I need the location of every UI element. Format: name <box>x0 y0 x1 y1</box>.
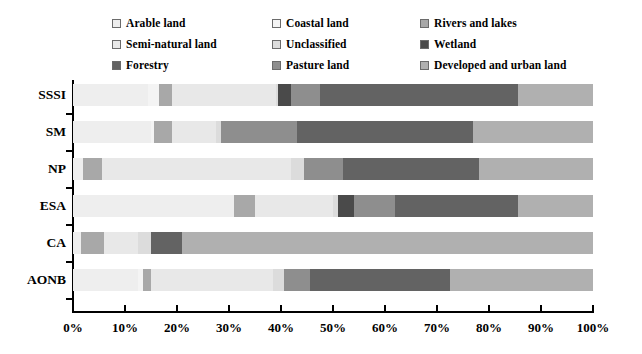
x-axis-tick-label: 50% <box>320 320 346 336</box>
bar-segment <box>151 269 273 291</box>
bar-segment <box>151 232 182 254</box>
y-axis-tick <box>66 261 73 263</box>
y-axis-tick <box>66 113 73 115</box>
y-axis-tick <box>66 224 73 226</box>
x-axis-tick-label: 0% <box>63 320 83 336</box>
bar-segment <box>143 269 151 291</box>
bar-segment <box>221 121 296 143</box>
legend-label: Pasture land <box>286 60 349 72</box>
bar-segment <box>73 84 148 106</box>
y-axis-category-label: SSSI <box>0 87 66 103</box>
bar-segment <box>81 232 104 254</box>
bar-segment <box>172 84 276 106</box>
plot-area <box>73 82 593 310</box>
bar-segment <box>73 158 83 180</box>
legend-swatch-icon <box>420 61 429 70</box>
x-axis-tick-label: 90% <box>528 320 554 336</box>
bar-segment <box>518 195 593 217</box>
bar-segment <box>159 84 172 106</box>
legend-swatch-icon <box>112 61 121 70</box>
legend-swatch-icon <box>272 40 281 49</box>
y-axis-category-label: ESA <box>0 198 66 214</box>
bar-segment <box>310 269 450 291</box>
bar-segment <box>278 84 291 106</box>
legend-swatch-icon <box>272 61 281 70</box>
legend-item: Forestry <box>112 60 272 72</box>
x-axis-tick-label: 80% <box>476 320 502 336</box>
bar-row <box>73 158 593 180</box>
legend-label: Unclassified <box>286 39 347 51</box>
bar-segment <box>154 121 172 143</box>
bar-row <box>73 269 593 291</box>
legend-swatch-icon <box>112 19 121 28</box>
bar-segment <box>450 269 593 291</box>
bar-segment <box>291 158 304 180</box>
chart-legend: Arable landCoastal landRivers and lakesS… <box>112 13 612 76</box>
bar-segment <box>182 232 593 254</box>
bar-segment <box>104 232 138 254</box>
bar-segment <box>354 195 396 217</box>
bar-segment <box>297 121 474 143</box>
bar-segment <box>148 84 158 106</box>
legend-label: Developed and urban land <box>434 60 566 72</box>
x-axis-tick-label: 100% <box>577 320 610 336</box>
stacked-bar-chart: Arable landCoastal landRivers and lakesS… <box>0 0 642 354</box>
legend-swatch-icon <box>420 40 429 49</box>
bar-segment <box>284 269 310 291</box>
legend-item: Semi-natural land <box>112 39 272 51</box>
bar-segment <box>73 232 81 254</box>
legend-item: Unclassified <box>272 39 420 51</box>
bar-segment <box>255 195 333 217</box>
bar-segment <box>473 121 593 143</box>
bar-segment <box>138 232 151 254</box>
y-axis-category-label: CA <box>0 235 66 251</box>
bar-segment <box>343 158 478 180</box>
bar-segment <box>73 269 138 291</box>
bar-row <box>73 195 593 217</box>
y-axis-category-label: AONB <box>0 272 66 288</box>
legend-item: Developed and urban land <box>420 60 612 72</box>
bar-segment <box>273 269 283 291</box>
bar-segment <box>320 84 518 106</box>
legend-swatch-icon <box>112 40 121 49</box>
bar-segment <box>338 195 354 217</box>
x-axis-tick-label: 60% <box>372 320 398 336</box>
bar-segment <box>518 84 593 106</box>
y-axis-category-label: NP <box>0 161 66 177</box>
legend-label: Arable land <box>126 18 186 30</box>
legend-item: Arable land <box>112 18 272 30</box>
legend-item: Pasture land <box>272 60 420 72</box>
bar-segment <box>395 195 517 217</box>
legend-label: Coastal land <box>286 18 349 30</box>
x-axis-tick-label: 30% <box>216 320 242 336</box>
legend-label: Forestry <box>126 60 169 72</box>
bar-row <box>73 84 593 106</box>
y-axis-tick <box>66 298 73 300</box>
x-axis-tick-label: 70% <box>424 320 450 336</box>
bar-row <box>73 232 593 254</box>
legend-label: Rivers and lakes <box>434 18 517 30</box>
bar-segment <box>73 195 234 217</box>
bar-segment <box>291 84 320 106</box>
bar-segment <box>234 195 255 217</box>
bar-segment <box>304 158 343 180</box>
x-axis-tick-label: 40% <box>268 320 294 336</box>
legend-item: Coastal land <box>272 18 420 30</box>
bar-segment <box>479 158 593 180</box>
legend-label: Wetland <box>434 39 476 51</box>
legend-item: Wetland <box>420 39 612 51</box>
bar-segment <box>83 158 101 180</box>
y-axis-category-label: SM <box>0 124 66 140</box>
legend-item: Rivers and lakes <box>420 18 612 30</box>
bar-row <box>73 121 593 143</box>
bar-segment <box>102 158 292 180</box>
y-axis-tick <box>66 150 73 152</box>
y-axis-tick <box>66 187 73 189</box>
legend-swatch-icon <box>272 19 281 28</box>
x-axis-tick-label: 10% <box>112 320 138 336</box>
bar-segment <box>73 121 151 143</box>
legend-label: Semi-natural land <box>126 39 217 51</box>
bar-segment <box>172 121 216 143</box>
x-axis-tick-label: 20% <box>164 320 190 336</box>
legend-swatch-icon <box>420 19 429 28</box>
